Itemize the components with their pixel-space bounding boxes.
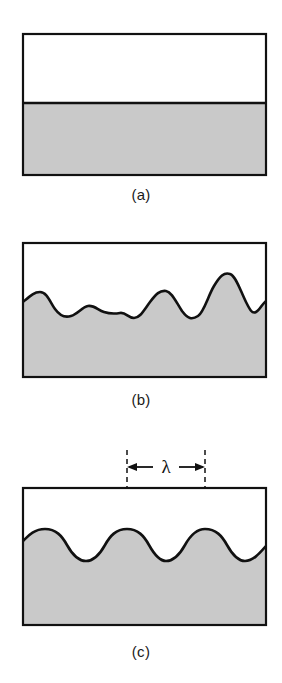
panel-b-caption: (b): [0, 391, 282, 408]
panel-a-lower-region-fill: [23, 103, 266, 175]
panel-b-diagram: [0, 230, 282, 390]
panel-b: [0, 230, 282, 390]
figure-container: (a) (b): [0, 0, 282, 683]
panel-c-diagram: λ: [0, 440, 282, 640]
panel-c: λ: [0, 440, 282, 640]
arrow-head-left-icon: [127, 463, 137, 471]
panel-a: [0, 20, 282, 185]
arrow-head-right-icon: [195, 463, 205, 471]
panel-c-caption: (c): [0, 643, 282, 660]
wavelength-symbol: λ: [161, 456, 171, 477]
panel-a-diagram: [0, 20, 282, 185]
panel-a-caption: (a): [0, 186, 282, 203]
